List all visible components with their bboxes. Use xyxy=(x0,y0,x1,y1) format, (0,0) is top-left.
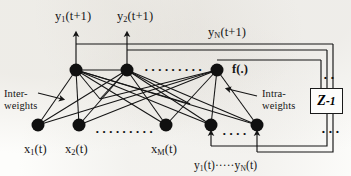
delay-block-exponent: -1 xyxy=(326,95,336,108)
input-layer-ellipsis: • • • • • • • • • xyxy=(96,128,153,136)
inter-layer-weight-edges xyxy=(38,70,257,125)
input-label-2: x2(t) xyxy=(65,143,88,157)
input-label-1: x1(t) xyxy=(24,143,47,157)
intra-weights-label: Intra- weights xyxy=(262,88,316,111)
feedback-input-label-subn: N xyxy=(240,164,246,173)
feedback-input-label-dots: ····· xyxy=(215,159,235,171)
delay-block-label: Z xyxy=(317,93,326,109)
feedback-top-lines xyxy=(76,44,333,60)
delay-bottom-dots: • • • xyxy=(322,128,340,136)
output-label-1-subscript: 1 xyxy=(61,15,65,24)
activation-function-label: f(.) xyxy=(232,63,248,76)
input-label-2-subscript: 2 xyxy=(71,148,75,157)
feedback-input-label: y1(t)·····yN(t) xyxy=(194,160,257,172)
inter-weights-line1: Inter- xyxy=(4,88,28,99)
intra-weights-line1: Intra- xyxy=(262,88,286,99)
input-label-m-subscript: M xyxy=(157,148,164,157)
output-label-n-subscript: N xyxy=(214,31,220,40)
feedback-ellipsis: • • • • xyxy=(223,130,247,138)
delay-top-dots: • • xyxy=(324,74,335,82)
output-label-2-subscript: 2 xyxy=(123,15,127,24)
output-arrows xyxy=(76,34,127,70)
hidden-layer-ellipsis: • • • • • • • • • xyxy=(145,66,202,74)
intra-weights-line2: weights xyxy=(262,100,295,111)
inter-weights-line2: weights xyxy=(4,100,37,111)
input-label-m: xM(t) xyxy=(151,143,177,157)
inter-weights-label: Inter- weights xyxy=(4,88,52,111)
output-label-n: yN(t+1) xyxy=(208,26,246,40)
input-label-1-subscript: 1 xyxy=(30,148,34,157)
figure-canvas: y1(t+1) y2(t+1) yN(t+1) f(.) Inter- weig… xyxy=(0,0,351,176)
output-label-1: y1(t+1) xyxy=(55,10,91,24)
output-label-2: y2(t+1) xyxy=(117,10,153,24)
unit-delay-block: Z-1 xyxy=(310,88,343,114)
feedback-input-label-sub1: 1 xyxy=(200,164,204,173)
